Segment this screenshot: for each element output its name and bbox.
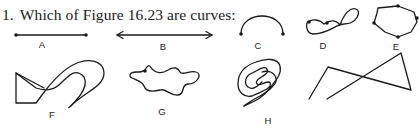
figure-16-23: A B C D E F G xyxy=(0,0,419,132)
figure-f-shape: F xyxy=(16,61,104,120)
figure-h-spiral: H xyxy=(238,59,280,126)
figure-e-closed-curve: E xyxy=(372,4,419,52)
label-a: A xyxy=(39,39,46,50)
label-h: H xyxy=(265,115,272,126)
figure-b-line: B xyxy=(117,32,212,53)
label-g: G xyxy=(158,106,165,117)
figure-g-blob: G xyxy=(130,66,199,117)
label-f: F xyxy=(49,109,55,120)
figure-polygonal-line xyxy=(309,53,411,99)
label-b: B xyxy=(160,41,166,52)
figure-d-figure-eight: D xyxy=(307,9,359,51)
label-c: C xyxy=(255,40,262,51)
figure-c-arc: C xyxy=(239,16,285,51)
label-d: D xyxy=(320,40,327,51)
figure-a-segment: A xyxy=(14,33,88,50)
label-e: E xyxy=(393,41,399,52)
